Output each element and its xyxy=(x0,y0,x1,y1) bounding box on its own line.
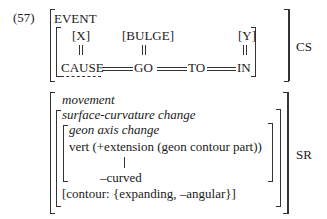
sr-inner-left-bracket xyxy=(63,125,68,182)
sr-mid-right-bracket xyxy=(276,109,281,207)
curved-link xyxy=(124,157,125,168)
surface-curvature-change: surface-curvature change xyxy=(62,108,195,121)
chain-link-1 xyxy=(102,67,133,71)
arg-bulge-link xyxy=(142,45,146,55)
contour-expression: [contour: {expanding, –angular}] xyxy=(62,187,236,200)
sr-divider-line xyxy=(288,92,289,214)
example-number: (57) xyxy=(13,11,35,24)
chain-cause: CAUSE xyxy=(61,61,104,74)
chain-go: GO xyxy=(134,61,153,74)
arg-x: [X] xyxy=(72,29,90,42)
chain-link-2 xyxy=(157,67,187,71)
chain-link-3 xyxy=(207,67,236,71)
chain-in: IN xyxy=(237,61,251,74)
curved-feature: –curved xyxy=(100,171,142,184)
chain-to: TO xyxy=(188,61,205,74)
geon-axis-change: geon axis change xyxy=(69,123,159,136)
arg-y-link xyxy=(243,45,247,55)
arg-y: [Y] xyxy=(238,29,256,42)
cs-label: CS xyxy=(296,40,312,53)
cs-divider-line xyxy=(289,9,290,81)
sr-inner-right-bracket xyxy=(268,123,273,182)
cause-underline xyxy=(61,76,101,77)
arg-bulge: [BULGE] xyxy=(122,29,174,42)
sr-mid-left-bracket xyxy=(56,110,61,207)
vert-expression: vert (+extension (geon contour part)) xyxy=(69,140,262,153)
movement: movement xyxy=(62,93,115,106)
sr-label: SR xyxy=(296,148,312,161)
arg-x-link xyxy=(79,45,83,55)
sr-outer-left-bracket xyxy=(50,92,55,214)
event-label: EVENT xyxy=(54,12,97,25)
